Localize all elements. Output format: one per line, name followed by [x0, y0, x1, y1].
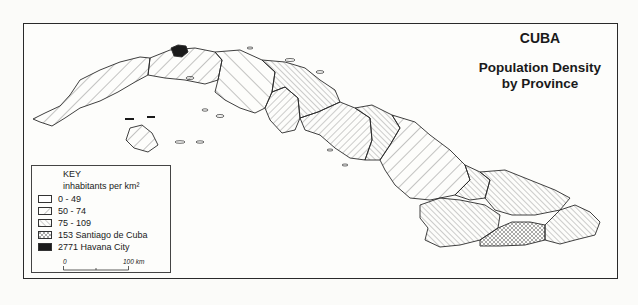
legend-row: 2771 Havana City	[38, 241, 130, 252]
wide-diagonal-swatch-icon	[38, 207, 52, 215]
legend-row: 50 - 74	[38, 205, 86, 216]
province-pinar-del-rio	[33, 57, 150, 126]
legend-row: 0 - 49	[38, 193, 81, 204]
map-title: CUBA Population Density by Province	[470, 30, 610, 92]
crosshatch-swatch-icon	[38, 231, 52, 239]
solid-swatch-icon	[38, 243, 52, 251]
province-holguin	[480, 170, 570, 215]
title-line-1: Population Density	[470, 60, 610, 76]
scale-line-icon	[63, 266, 133, 271]
legend-label: 2771 Havana City	[58, 242, 130, 252]
legend-row: 153 Santiago de Cuba	[38, 229, 148, 240]
legend-label: 0 - 49	[58, 194, 81, 204]
legend-heading: KEY	[63, 169, 81, 179]
legend-row: 75 - 109	[38, 217, 91, 228]
legend-label: 153 Santiago de Cuba	[58, 230, 148, 240]
scale-start: 0	[63, 258, 67, 265]
legend-unit: inhabitants per km²	[63, 181, 140, 191]
dense-diagonal-swatch-icon	[38, 219, 52, 227]
legend-label: 50 - 74	[58, 206, 86, 216]
scale-end: 100 km	[123, 258, 144, 265]
isla-de-la-juventud	[126, 125, 158, 152]
title-country: CUBA	[470, 30, 610, 46]
legend: KEY inhabitants per km² 0 - 49 50 - 74 7…	[31, 165, 171, 273]
title-line-2: by Province	[470, 76, 610, 92]
blank-swatch-icon	[38, 195, 52, 203]
province-matanzas	[215, 50, 275, 113]
legend-label: 75 - 109	[58, 218, 91, 228]
